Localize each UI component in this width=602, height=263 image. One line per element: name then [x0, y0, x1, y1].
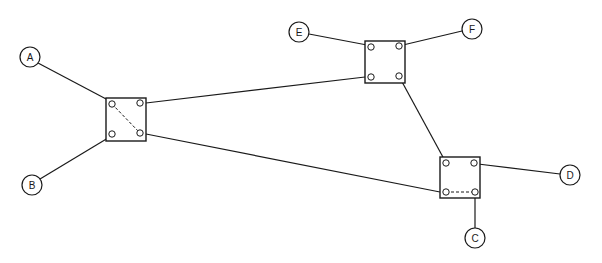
port-tl-icon [443, 160, 449, 166]
port-bl-icon [109, 131, 115, 137]
port-tr-icon [137, 100, 143, 106]
port-br-icon [137, 130, 143, 136]
link-f-s2 [403, 31, 462, 45]
port-bl-icon [443, 189, 449, 195]
switches-layer [106, 41, 480, 198]
link-s3-d [478, 164, 560, 174]
port-bl-icon [368, 74, 374, 80]
port-tl-icon [109, 101, 115, 107]
terminal-node-f: F [462, 19, 482, 39]
port-tl-icon [368, 44, 374, 50]
node-label: A [27, 52, 34, 63]
link-b-s1 [40, 138, 108, 179]
link-s2-s3 [401, 80, 444, 159]
port-br-icon [472, 189, 478, 195]
network-diagram: ABCDEF [0, 0, 602, 263]
terminal-node-b: B [22, 175, 42, 195]
link-s1-s2 [146, 77, 365, 103]
node-label: C [471, 233, 478, 244]
node-label: D [566, 170, 573, 181]
terminals-layer: ABCDEF [20, 19, 580, 248]
port-tr-icon [396, 43, 402, 49]
node-label: B [29, 180, 36, 191]
node-label: E [296, 27, 303, 38]
terminal-node-a: A [20, 47, 40, 67]
port-br-icon [396, 73, 402, 79]
link-s1-s3 [146, 134, 440, 192]
link-a-s1 [38, 63, 108, 100]
switch-box-s2 [365, 41, 405, 83]
terminal-node-e: E [289, 22, 309, 42]
node-label: F [469, 24, 475, 35]
switch-box-s1 [106, 98, 146, 141]
terminal-node-c: C [465, 228, 485, 248]
link-e-s2 [309, 34, 367, 45]
switch-box-s3 [440, 157, 480, 198]
port-tr-icon [471, 160, 477, 166]
terminal-node-d: D [560, 165, 580, 185]
